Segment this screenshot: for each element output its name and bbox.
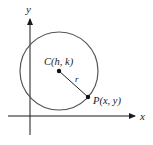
x-axis-label: x bbox=[139, 110, 145, 122]
point-p bbox=[86, 95, 90, 99]
center-point bbox=[57, 69, 61, 73]
radius-label: r bbox=[75, 74, 79, 84]
point-label: P(x, y) bbox=[92, 95, 121, 107]
center-label: C(h, k) bbox=[44, 56, 74, 68]
radius-line bbox=[59, 71, 88, 97]
y-axis-label: y bbox=[25, 3, 31, 15]
circle-diagram: y x C(h, k) r P(x, y) bbox=[0, 0, 153, 145]
